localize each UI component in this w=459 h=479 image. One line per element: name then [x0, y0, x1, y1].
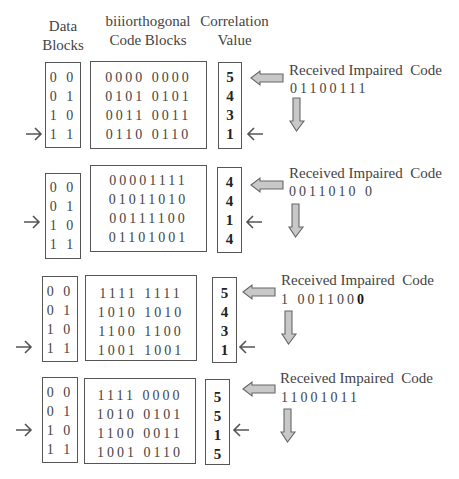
code-blocks-box: 00001111 01011010 00111100 01101001 [90, 165, 207, 252]
received-code: 1 0011000 [281, 292, 367, 308]
selected-row-arrow-icon [25, 127, 43, 141]
data-block: 1 0 [50, 106, 77, 125]
received-label: Received Impaired Code [280, 370, 433, 387]
code-blocks-box: 1111 0000 1010 0101 1100 0011 1001 0110 [84, 378, 196, 464]
input-arrow-icon [250, 70, 284, 86]
code-block: 1100 0011 [97, 424, 182, 443]
correlation-value: 5 [221, 284, 229, 303]
header-line: Code Blocks [92, 31, 204, 50]
data-block: 0 1 [47, 301, 74, 320]
data-blocks-box: 0 0 0 1 1 0 1 1 [42, 377, 78, 463]
code-block: 00001111 [109, 171, 187, 190]
received-code: 01100111 [290, 81, 368, 97]
correlation-value: 1 [214, 426, 222, 445]
next-stage-arrow-icon [288, 203, 304, 238]
input-arrow-icon [242, 381, 276, 397]
correlation-value: 5 [214, 445, 222, 464]
correlation-box: 4 4 1 4 [217, 167, 242, 253]
correlation-value: 4 [221, 303, 229, 322]
correlation-box: 5 5 1 5 [205, 379, 230, 465]
data-blocks-box: 0 0 0 1 1 0 1 1 [45, 173, 81, 259]
code-block: 01011010 [109, 190, 188, 209]
correlation-box: 5 4 3 1 [218, 62, 242, 149]
min-correlation-arrow-icon [238, 340, 256, 354]
code-block: 1010 1010 [98, 303, 185, 322]
data-block: 0 0 [47, 282, 74, 301]
correlation-value: 4 [226, 230, 234, 249]
data-blocks-box: 0 0 0 1 1 0 1 1 [42, 276, 78, 362]
correlation-box: 5 4 3 1 [212, 277, 237, 363]
next-stage-arrow-icon [280, 408, 296, 443]
code-block: 1111 1111 [99, 284, 182, 303]
header-data-blocks: Data Blocks [40, 17, 86, 55]
code-block: 0101 0101 [105, 87, 192, 106]
correlation-value: 1 [221, 341, 229, 360]
correlation-value: 5 [214, 388, 222, 407]
correlation-value: 3 [221, 322, 229, 341]
header-code-blocks: biiiorthogonal Code Blocks [92, 12, 204, 50]
min-correlation-arrow-icon [245, 215, 263, 229]
correlation-value: 4 [226, 173, 234, 192]
min-correlation-arrow-icon [232, 423, 250, 437]
received-code-main: 1 001100 [281, 292, 357, 307]
data-blocks-box: 0 0 0 1 1 0 1 1 [45, 62, 81, 148]
selected-row-arrow-icon [15, 423, 33, 437]
received-label: Received Impaired Code [289, 62, 442, 79]
correlation-value: 4 [226, 87, 234, 106]
data-block: 1 1 [50, 125, 77, 144]
correlation-value: 1 [226, 211, 234, 230]
code-block: 01101001 [109, 228, 188, 247]
header-line: Value [197, 31, 272, 50]
code-block: 0110 0110 [106, 125, 191, 144]
received-label: Received Impaired Code [289, 165, 442, 182]
header-line: Data [40, 17, 86, 36]
correlation-value: 5 [226, 68, 234, 87]
selected-row-arrow-icon [23, 215, 41, 229]
data-block: 1 0 [47, 320, 74, 339]
code-blocks-box: 0000 0000 0101 0101 0011 0011 0110 0110 [90, 61, 207, 149]
code-block: 1111 0000 [98, 386, 183, 405]
data-block: 1 1 [47, 339, 74, 358]
received-code: 11001011 [281, 390, 360, 406]
data-block: 0 1 [47, 402, 74, 421]
code-block: 1010 0101 [97, 405, 184, 424]
data-block: 0 1 [50, 87, 77, 106]
next-stage-arrow-icon [281, 310, 297, 345]
selected-row-arrow-icon [15, 340, 33, 354]
data-block: 1 0 [47, 421, 74, 440]
data-block: 0 1 [50, 197, 77, 216]
header-line: biiiorthogonal [92, 12, 204, 31]
code-block: 0000 0000 [105, 68, 192, 87]
data-block: 1 0 [50, 216, 77, 235]
header-line: Blocks [40, 36, 86, 55]
code-block: 1001 1001 [98, 341, 185, 360]
input-arrow-icon [242, 284, 276, 300]
data-block: 1 1 [47, 440, 74, 459]
min-correlation-arrow-icon [246, 127, 264, 141]
code-block: 00111100 [109, 209, 187, 228]
correlation-value: 1 [226, 125, 234, 144]
header-correlation: Correlation Value [197, 12, 272, 50]
input-arrow-icon [250, 177, 284, 193]
code-block: 1001 0110 [97, 443, 183, 462]
data-block: 0 0 [50, 68, 77, 87]
received-code: 0011010 0 [289, 184, 375, 200]
next-stage-arrow-icon [289, 97, 305, 132]
correlation-value: 4 [226, 192, 234, 211]
code-block: 1100 1100 [98, 322, 183, 341]
data-block: 0 0 [50, 178, 77, 197]
correlation-value: 3 [226, 106, 234, 125]
code-blocks-box: 1111 1111 1010 1010 1100 1100 1001 1001 [85, 275, 197, 361]
data-block: 1 1 [50, 235, 77, 254]
header-line: Correlation [197, 12, 272, 31]
received-label: Received Impaired Code [281, 272, 434, 289]
data-block: 0 0 [47, 383, 74, 402]
code-block: 0011 0011 [106, 106, 191, 125]
received-code-error-bit: 0 [357, 292, 367, 307]
correlation-value: 5 [214, 407, 222, 426]
